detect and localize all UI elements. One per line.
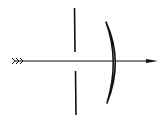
optics-diagram: Optical ray passing through an aperture …: [0, 0, 166, 121]
ray-arrowhead-icon: [146, 59, 158, 63]
meniscus-lens: [106, 22, 115, 103]
light-ray: [12, 58, 158, 64]
